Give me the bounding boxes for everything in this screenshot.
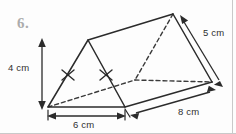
hidden-edge-back-bottom	[135, 80, 212, 82]
slant-dimension-label: 5 cm	[203, 28, 224, 38]
height-dimension-label: 4 cm	[8, 63, 29, 73]
length-dimension-label: 8 cm	[178, 107, 199, 117]
base-dimension-label: 6 cm	[73, 120, 94, 130]
back-right-slant-edge	[173, 14, 212, 82]
prism-drawing-canvas	[0, 0, 236, 134]
dimension-arrow-height	[38, 38, 46, 110]
dimension-arrow-slant	[180, 15, 223, 87]
question-number-label: 6.	[17, 16, 29, 31]
triangular-prism-figure: 6. 4 cm 6 cm 8 cm 5 cm	[0, 0, 236, 134]
front-triangular-face	[48, 40, 125, 107]
